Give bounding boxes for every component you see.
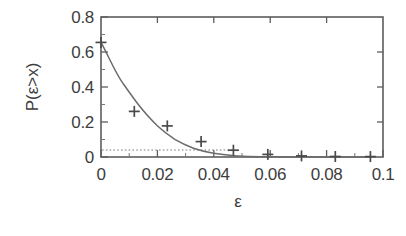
chart-figure: 0.8 0.6 0.4 0.2 0 0 0.02 0.04 0.06 0.08 … (0, 0, 406, 236)
x-tick-label-5: 0.1 (372, 165, 395, 184)
y-axis-title: P(ε>x) (23, 63, 42, 112)
y-tick-label-3: 0.2 (71, 113, 94, 132)
x-tick-label-2: 0.04 (198, 165, 230, 184)
y-tick-label-2: 0.4 (71, 78, 94, 97)
y-tick-label-4: 0 (85, 148, 94, 167)
y-tick-label-0: 0.8 (71, 8, 94, 27)
series-markers (96, 37, 376, 162)
x-tick-label-3: 0.06 (254, 165, 286, 184)
y-axis-right-ticks (377, 52, 383, 122)
x-axis-title: ε (234, 192, 242, 211)
x-axis-top-ticks (157, 17, 326, 23)
y-axis-major-ticks (101, 17, 108, 157)
x-tick-label-0: 0 (96, 165, 105, 184)
x-tick-label-1: 0.02 (141, 165, 173, 184)
plot-frame (101, 17, 383, 157)
x-tick-label-4: 0.08 (311, 165, 343, 184)
y-tick-label-1: 0.6 (71, 43, 94, 62)
chart-svg: 0.8 0.6 0.4 0.2 0 0 0.02 0.04 0.06 0.08 … (0, 0, 406, 236)
series-line-p-epsilon (101, 42, 370, 157)
